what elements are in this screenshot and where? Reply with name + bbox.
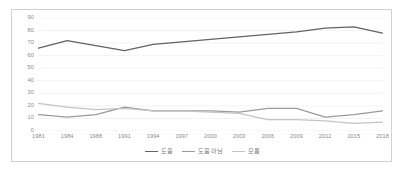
y-axis-tick-label: 60 <box>28 53 34 59</box>
x-axis-tick-label: 1997 <box>175 134 188 140</box>
series-line-2 <box>39 103 383 123</box>
screenshot-root: 9080706050403020100 19811984198819911994… <box>0 0 403 172</box>
line-chart-svg <box>38 18 383 131</box>
x-axis-tick-label: 2006 <box>261 134 274 140</box>
y-axis-tick-label: 20 <box>28 103 34 109</box>
legend-item-2[interactable]: 모름 <box>232 148 260 154</box>
series-paths <box>39 27 383 124</box>
chart-frame: 9080706050403020100 19811984198819911994… <box>11 9 392 162</box>
x-axis-tick-label: 2009 <box>290 134 303 140</box>
legend-label: 모름 <box>248 148 260 154</box>
legend-line-swatch-icon <box>145 151 158 152</box>
legend-label: 도움 아님 <box>198 148 224 154</box>
x-axis: 1981198419881991199419972000200320062009… <box>38 134 383 144</box>
plot-area <box>38 18 383 131</box>
x-axis-tick-label: 2015 <box>347 134 360 140</box>
x-axis-tick-label: 2003 <box>233 134 246 140</box>
chart-legend: 도움도움 아님모름 <box>12 148 393 154</box>
x-axis-tick-label: 1988 <box>89 134 102 140</box>
legend-item-1[interactable]: 도움 아님 <box>182 148 224 154</box>
x-axis-tick-label: 1991 <box>118 134 131 140</box>
x-axis-tick-label: 1984 <box>61 134 74 140</box>
legend-line-swatch-icon <box>232 151 245 152</box>
x-axis-tick-label: 1981 <box>32 134 45 140</box>
x-axis-tick-label: 1994 <box>147 134 160 140</box>
legend-item-0[interactable]: 도움 <box>145 148 173 154</box>
y-axis-tick-label: 50 <box>28 65 34 71</box>
y-axis-tick-label: 80 <box>28 28 34 34</box>
x-axis-tick-label: 2012 <box>319 134 332 140</box>
y-axis: 9080706050403020100 <box>12 18 36 131</box>
y-axis-tick-label: 90 <box>28 15 34 21</box>
y-axis-tick-label: 40 <box>28 78 34 84</box>
x-axis-tick-label: 2000 <box>204 134 217 140</box>
y-axis-tick-label: 70 <box>28 40 34 46</box>
legend-label: 도움 <box>161 148 173 154</box>
x-axis-tick-label: 2018 <box>376 134 389 140</box>
gridlines <box>38 18 383 131</box>
y-axis-tick-label: 10 <box>28 115 34 121</box>
legend-line-swatch-icon <box>182 151 195 152</box>
y-axis-tick-label: 30 <box>28 90 34 96</box>
